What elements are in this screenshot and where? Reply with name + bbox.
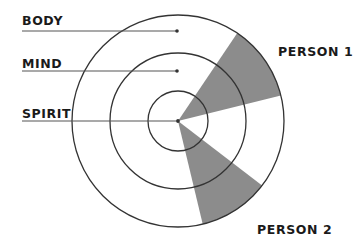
person-1-label: PERSON 1 xyxy=(278,44,353,59)
person-2-wedge xyxy=(178,121,262,224)
spirit-label: SPIRIT xyxy=(22,106,71,121)
mind-leader-dot xyxy=(175,69,179,73)
body-leader-dot xyxy=(175,29,179,33)
body-label: BODY xyxy=(22,13,63,28)
concentric-rings-diagram: BODY MIND SPIRIT PERSON 1 PERSON 2 xyxy=(0,0,361,248)
person-2-label: PERSON 2 xyxy=(257,222,332,237)
mind-label: MIND xyxy=(22,56,62,71)
center-dot xyxy=(176,119,180,123)
